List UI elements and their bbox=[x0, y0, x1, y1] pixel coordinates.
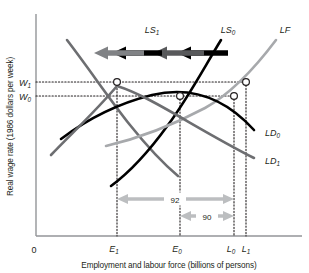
span-92-head-left bbox=[117, 194, 128, 204]
x-tick-label-L0: L0 bbox=[227, 244, 236, 255]
curve-label-LD0-sub: 0 bbox=[277, 132, 281, 139]
curve-label-LS0: LS0 bbox=[221, 25, 236, 36]
shift-arrow-outer-gray bbox=[94, 47, 144, 60]
shift-arrow-outer-gray-head bbox=[94, 47, 108, 60]
marker-eq-E1-W1 bbox=[114, 79, 121, 86]
marker-eq-L0-W0 bbox=[231, 93, 238, 100]
curve-label-LS1-base: LS bbox=[145, 25, 156, 35]
x-axis-title: Employment and labour force (billions of… bbox=[81, 261, 257, 270]
span-90-value: 90 bbox=[203, 213, 212, 222]
y-tick-label-W1-sub: 1 bbox=[27, 82, 31, 89]
y-tick-labels-group: W1 W0 bbox=[19, 78, 32, 103]
origin-label: 0 bbox=[31, 245, 36, 255]
x-tick-label-L0-sub: 0 bbox=[232, 248, 236, 255]
y-tick-label-W1: W1 bbox=[19, 78, 32, 89]
marker-eq-E0-W0 bbox=[177, 93, 184, 100]
span-90-head-left bbox=[180, 211, 191, 221]
y-tick-label-W0-sub: 0 bbox=[27, 96, 31, 103]
x-tick-label-E0: E0 bbox=[172, 244, 182, 255]
x-tick-label-E0-sub: 0 bbox=[178, 248, 182, 255]
x-tick-label-E1: E1 bbox=[109, 244, 119, 255]
curve-label-LD0: LD0 bbox=[265, 128, 281, 139]
shift-arrows-group bbox=[94, 47, 228, 60]
span-92-head-right bbox=[223, 194, 234, 204]
x-tick-label-L1: L1 bbox=[242, 244, 251, 255]
y-tick-label-W0: W0 bbox=[19, 92, 32, 103]
marker-eq-L1-W1 bbox=[243, 79, 250, 86]
span-92-value: 92 bbox=[171, 196, 180, 205]
curve-label-LD1: LD1 bbox=[265, 156, 281, 167]
curves-group bbox=[51, 40, 276, 186]
curve-label-LF: LF bbox=[280, 25, 291, 35]
curve-label-LS0-base: LS bbox=[221, 25, 232, 35]
span-measure-90: 90 bbox=[180, 210, 234, 223]
y-axis-title: Real wage rate (1986 dollars per week) bbox=[6, 57, 15, 196]
span-90-head-right bbox=[223, 211, 234, 221]
x-tick-label-E1-sub: 1 bbox=[115, 248, 119, 255]
chart-canvas: Real wage rate (1986 dollars per week) E… bbox=[0, 0, 309, 273]
x-tick-label-L1-sub: 1 bbox=[247, 248, 251, 255]
span-measure-92: 92 bbox=[117, 193, 234, 206]
x-tick-labels-group: E1 E0 L0 L1 bbox=[109, 244, 251, 255]
curve-LS1 bbox=[67, 40, 178, 176]
curve-label-LD1-base: LD bbox=[265, 156, 277, 166]
curve-label-LS0-sub: 0 bbox=[232, 29, 236, 36]
labour-market-chart-figure: Real wage rate (1986 dollars per week) E… bbox=[0, 0, 309, 273]
curve-label-LD0-base: LD bbox=[265, 128, 277, 138]
curve-label-LD1-sub: 1 bbox=[277, 160, 281, 167]
curve-label-LS1-sub: 1 bbox=[156, 29, 160, 36]
curve-label-LS1: LS1 bbox=[145, 25, 160, 36]
